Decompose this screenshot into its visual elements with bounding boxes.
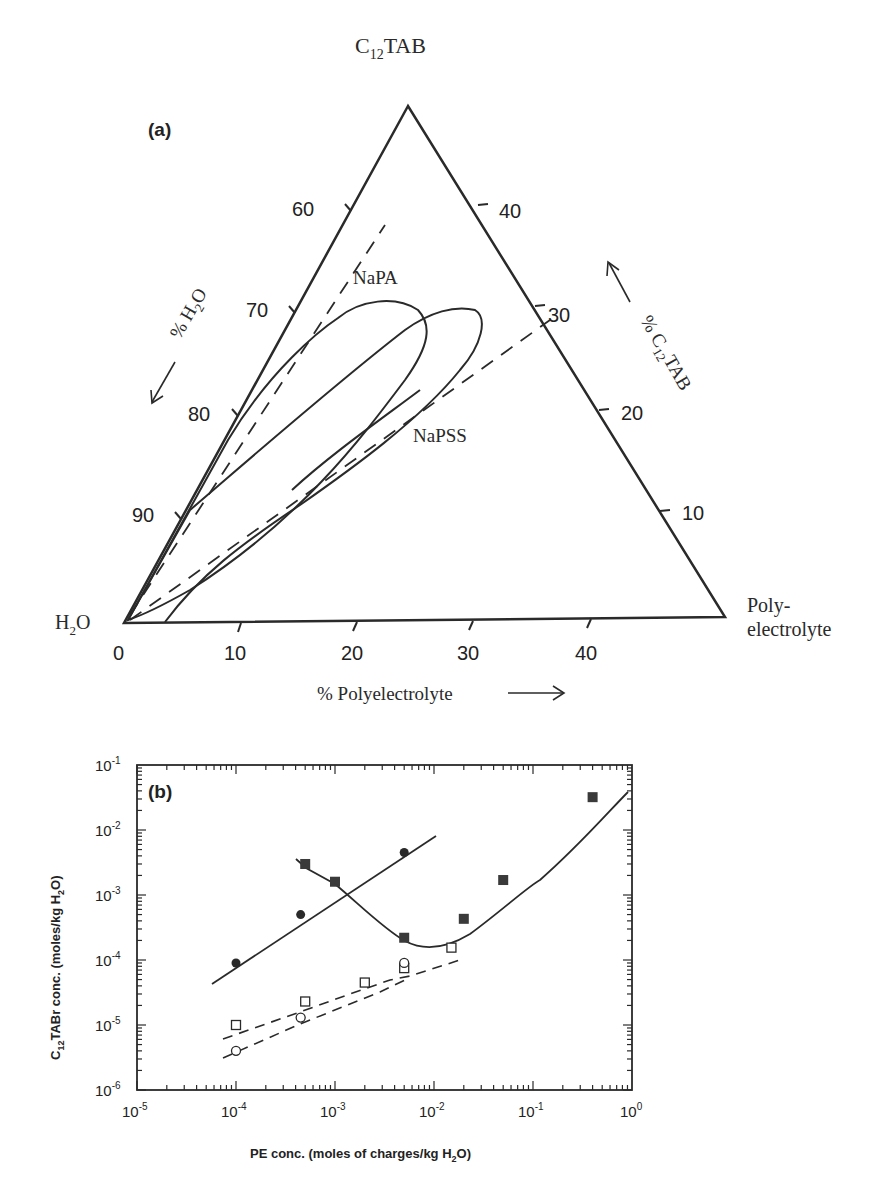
svg-text:0: 0 xyxy=(113,642,124,664)
ternary-diagram: (a) C12TAB H2O Poly- electrolyte 0 10 20… xyxy=(55,33,832,704)
napss-label: NaPSS xyxy=(413,425,467,446)
bottom-axis-label: % Polyelectrolyte xyxy=(317,683,453,704)
open-square-marker xyxy=(447,943,456,952)
right-axis-label: % C12TAB xyxy=(633,312,696,396)
panel-b-label: (b) xyxy=(148,781,172,802)
filled-circle-marker xyxy=(232,958,241,967)
filled-square-marker xyxy=(459,914,469,924)
open-circle-marker xyxy=(400,958,409,967)
dashed-line-2 xyxy=(130,320,550,620)
filled-square-marker xyxy=(330,877,340,887)
vertex-left-label: H2O xyxy=(55,611,90,638)
napss-curve xyxy=(128,308,482,622)
y-axis-ticks xyxy=(137,768,632,1090)
x-axis-title: PE conc. (moles of charges/kg H2O) xyxy=(250,1146,471,1164)
filled-square-marker xyxy=(588,792,598,802)
svg-text:40: 40 xyxy=(575,642,597,664)
vertex-top-label: C12TAB xyxy=(355,33,426,62)
filled-circle-marker xyxy=(400,848,409,857)
fit-line-open-squares xyxy=(223,960,460,1039)
svg-text:10-5: 10-5 xyxy=(95,1015,121,1034)
svg-text:30: 30 xyxy=(457,642,479,664)
x-axis-ticks xyxy=(137,765,627,1090)
filled-square-marker xyxy=(300,859,310,869)
loglog-plot: (b) 10-5 10-4 10-3 10-2 10-1 100 10-1 10… xyxy=(48,755,643,1164)
svg-text:10-1: 10-1 xyxy=(95,755,121,774)
svg-text:10-2: 10-2 xyxy=(419,1101,445,1120)
napss-inner-branch xyxy=(292,390,420,490)
right-arrow-icon xyxy=(508,686,564,700)
filled-circle-marker xyxy=(296,910,305,919)
right-axis-ticks xyxy=(478,204,670,511)
svg-text:10: 10 xyxy=(224,642,246,664)
svg-text:10-1: 10-1 xyxy=(518,1101,544,1120)
data-markers xyxy=(232,792,598,1055)
panel-a-label: (a) xyxy=(148,119,171,140)
filled-square-marker xyxy=(498,875,508,885)
down-left-arrow-icon xyxy=(151,362,175,403)
svg-text:100: 100 xyxy=(620,1101,643,1120)
svg-text:10-2: 10-2 xyxy=(95,820,121,839)
up-left-arrow-icon xyxy=(607,262,630,302)
svg-text:20: 20 xyxy=(621,402,643,424)
fit-line-open-circles xyxy=(223,980,405,1058)
fit-line-filled-squares xyxy=(296,792,628,947)
svg-text:40: 40 xyxy=(499,200,521,222)
svg-text:10-5: 10-5 xyxy=(122,1101,148,1120)
svg-text:70: 70 xyxy=(246,299,268,321)
svg-text:10-6: 10-6 xyxy=(95,1080,121,1099)
svg-text:10-3: 10-3 xyxy=(95,885,121,904)
svg-text:10-3: 10-3 xyxy=(320,1101,346,1120)
svg-text:30: 30 xyxy=(548,304,570,326)
ternary-frame xyxy=(124,106,725,623)
left-axis-ticks xyxy=(175,204,351,519)
open-square-marker xyxy=(360,978,369,987)
y-tick-labels: 10-1 10-2 10-3 10-4 10-5 10-6 xyxy=(95,755,121,1099)
svg-text:10-4: 10-4 xyxy=(95,950,121,969)
svg-text:20: 20 xyxy=(341,642,363,664)
vertex-right-label-line1: Poly- xyxy=(747,594,790,617)
open-square-marker xyxy=(232,1021,241,1030)
left-axis-label: % H2O xyxy=(165,284,214,344)
svg-text:10-4: 10-4 xyxy=(221,1101,247,1120)
svg-text:60: 60 xyxy=(292,198,314,220)
vertex-right-label-line2: electrolyte xyxy=(747,618,832,641)
svg-text:10: 10 xyxy=(682,502,704,524)
napa-label: NaPA xyxy=(353,267,398,288)
y-axis-title: C12TABr conc. (moles/kg H2O) xyxy=(48,875,66,1060)
open-square-marker xyxy=(301,997,310,1006)
x-tick-labels: 10-5 10-4 10-3 10-2 10-1 100 xyxy=(122,1101,643,1120)
open-circle-marker xyxy=(296,1013,305,1022)
dashed-line-1 xyxy=(130,225,385,615)
svg-text:80: 80 xyxy=(188,403,210,425)
open-circle-marker xyxy=(232,1046,241,1055)
svg-text:90: 90 xyxy=(132,504,154,526)
figure: (a) C12TAB H2O Poly- electrolyte 0 10 20… xyxy=(0,0,896,1177)
filled-square-marker xyxy=(399,933,409,943)
bottom-axis-tick-labels: 0 10 20 30 40 xyxy=(113,642,597,664)
